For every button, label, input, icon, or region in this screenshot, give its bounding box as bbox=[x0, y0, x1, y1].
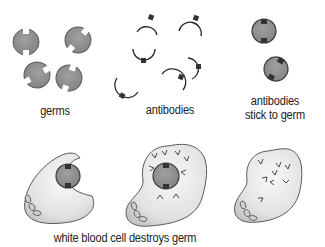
germ-icon bbox=[59, 21, 97, 59]
germ-icon bbox=[18, 57, 55, 94]
antibodies-group bbox=[115, 14, 201, 99]
white-blood-cell-after bbox=[234, 149, 301, 223]
coated-germ-icon bbox=[153, 163, 179, 189]
antibody-icon bbox=[137, 14, 157, 35]
antibody-icon bbox=[133, 49, 155, 63]
antibody-icon bbox=[188, 58, 201, 79]
antibody-coated-germs bbox=[252, 19, 292, 85]
germs-caption: germs bbox=[24, 104, 86, 118]
stick-caption-line2: stick to germ bbox=[235, 108, 314, 122]
white-blood-cell-engulfing bbox=[24, 153, 96, 223]
immune-response-diagram bbox=[0, 0, 325, 247]
white-blood-cell-digesting bbox=[126, 144, 207, 226]
coated-germ-icon bbox=[56, 164, 80, 188]
germ-icon bbox=[52, 60, 86, 95]
antibodies-caption: antibodies bbox=[135, 103, 205, 117]
antibody-icon bbox=[162, 69, 186, 90]
coated-germ-icon bbox=[252, 19, 276, 43]
antibody-icon bbox=[115, 78, 138, 99]
germ-icon bbox=[13, 28, 39, 56]
destroys-caption: white blood cell destroys germ bbox=[37, 231, 213, 245]
stick-caption-line1: antibodies bbox=[240, 94, 310, 108]
germs-group bbox=[13, 21, 97, 96]
coated-germ-icon bbox=[260, 53, 293, 86]
antibody-icon bbox=[179, 15, 201, 36]
